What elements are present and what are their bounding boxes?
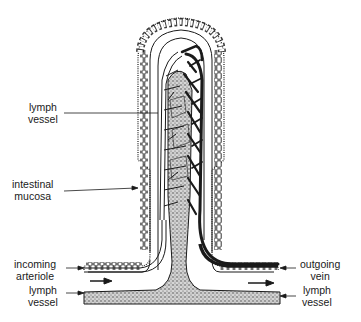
label-line: outgoing [300,258,340,270]
label-lymph-vessel-right: lymph vessel [302,284,332,308]
label-line: intestinal [12,178,53,190]
label-line: lymph [28,101,58,113]
label-line: vessel [302,296,332,308]
label-incoming-arteriole: incoming arteriole [14,258,56,282]
label-lymph-vessel-left: lymph vessel [28,284,58,308]
epithelial-cells-left [140,50,148,250]
label-outgoing-vein: outgoing vein [300,258,340,282]
villus-diagram: lymph vessel intestinal mucosa incoming … [0,0,361,322]
label-line: vessel [28,113,58,125]
label-line: lymph [302,284,332,296]
label-intestinal-mucosa: intestinal mucosa [12,178,53,202]
leader-mucosa [64,188,136,191]
epithelial-cells-right [214,50,222,250]
label-line: vessel [28,296,58,308]
inflow-arrow-icon [90,278,112,284]
label-line: mucosa [12,190,53,202]
label-lymph-vessel-top: lymph vessel [28,101,58,125]
outflow-arrow-icon [248,280,274,286]
venous-network [182,46,278,264]
label-line: incoming [14,258,56,270]
label-line: arteriole [14,270,56,282]
label-line: lymph [28,284,58,296]
label-line: vein [300,270,340,282]
